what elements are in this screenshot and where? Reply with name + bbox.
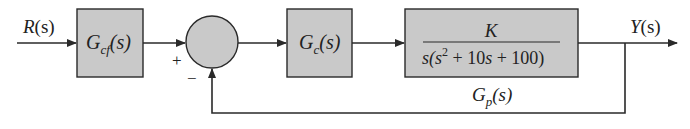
minus-sign: −: [187, 69, 197, 88]
block-gcf: Gcf(s): [77, 9, 143, 77]
output-signal: Y(s): [578, 16, 677, 43]
output-label: Y(s): [630, 16, 661, 38]
summing-junction: + −: [172, 16, 238, 88]
plant-numerator: K: [484, 20, 499, 41]
plant-caption: Gp(s): [472, 84, 512, 109]
input-label: R(s): [22, 16, 55, 38]
block-gc: Gc(s): [287, 9, 352, 77]
block-diagram: R(s) Gcf(s) + − Gc(s) K s(s2 + 10s + 100…: [0, 0, 690, 129]
plus-sign: +: [172, 51, 182, 70]
input-signal: R(s): [17, 16, 76, 43]
block-plant: K s(s2 + 10s + 100): [405, 9, 578, 77]
plant-denominator: s(s2 + 10s + 100): [422, 45, 544, 69]
